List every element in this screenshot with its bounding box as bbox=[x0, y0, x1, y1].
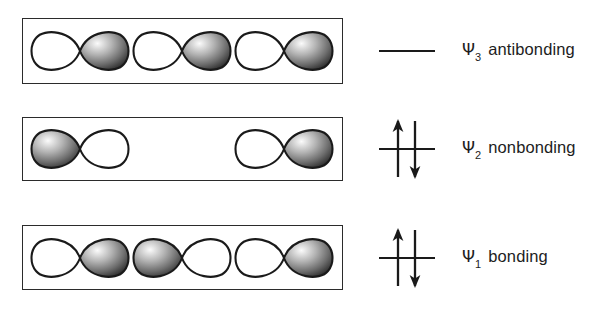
orbital-lobe-empty-icon bbox=[236, 126, 284, 172]
orbital-lobe-shaded-icon bbox=[80, 235, 128, 281]
orbital-lobe-shaded-icon bbox=[80, 28, 128, 74]
molecular-orbital-diagram: Ψ3antibonding bbox=[0, 0, 607, 309]
orbital-lobe-shaded-icon bbox=[284, 28, 332, 74]
electron-arrow-down-icon bbox=[408, 228, 422, 288]
p-orbital bbox=[134, 235, 230, 281]
p-orbital bbox=[236, 235, 332, 281]
psi-symbol: Ψ bbox=[462, 247, 475, 266]
orbital-lobe-shaded-icon bbox=[284, 126, 332, 172]
psi-subscript: 3 bbox=[475, 52, 481, 64]
psi-symbol: Ψ bbox=[462, 138, 475, 157]
mo-label-psi2: Ψ2nonbonding bbox=[462, 138, 576, 159]
p-orbital-node-empty bbox=[134, 126, 230, 172]
energy-level-psi1 bbox=[379, 228, 435, 288]
p-orbital bbox=[236, 28, 332, 74]
orbital-box-psi1 bbox=[22, 225, 343, 290]
energy-level-line bbox=[379, 50, 435, 52]
mo-level-row: Ψ1bonding bbox=[0, 225, 607, 290]
p-orbital bbox=[236, 126, 332, 172]
psi-symbol: Ψ bbox=[462, 40, 475, 59]
p-orbital bbox=[32, 235, 128, 281]
orbital-strip bbox=[23, 118, 342, 180]
energy-level-line bbox=[379, 257, 435, 259]
orbital-lobe-shaded-icon bbox=[284, 235, 332, 281]
orbital-lobe-empty-icon bbox=[236, 28, 284, 74]
mo-level-row: Ψ3antibonding bbox=[0, 18, 607, 84]
energy-level-line bbox=[379, 148, 435, 150]
psi-subscript: 1 bbox=[475, 258, 481, 270]
orbital-lobe-empty-icon bbox=[236, 235, 284, 281]
mo-level-row: Ψ2nonbonding bbox=[0, 117, 607, 181]
psi-subscript: 2 bbox=[475, 150, 481, 162]
orbital-lobe-empty-icon bbox=[32, 235, 80, 281]
energy-level-psi2 bbox=[379, 119, 435, 179]
orbital-lobe-empty-icon bbox=[32, 28, 80, 74]
orbital-strip bbox=[23, 19, 342, 83]
orbital-lobe-shaded-icon bbox=[32, 126, 80, 172]
orbital-lobe-shaded-icon bbox=[182, 28, 230, 74]
orbital-lobe-empty-icon bbox=[134, 28, 182, 74]
electron-arrow-up-icon bbox=[391, 119, 405, 179]
mo-term: antibonding bbox=[488, 40, 574, 58]
orbital-strip bbox=[23, 226, 342, 289]
electron-arrow-up-icon bbox=[391, 228, 405, 288]
mo-term: bonding bbox=[488, 247, 547, 265]
orbital-lobe-shaded-icon bbox=[134, 235, 182, 281]
p-orbital bbox=[32, 28, 128, 74]
electron-arrow-down-icon bbox=[408, 119, 422, 179]
mo-label-psi3: Ψ3antibonding bbox=[462, 40, 575, 61]
energy-level-psi3 bbox=[379, 21, 435, 81]
orbital-box-psi2 bbox=[22, 117, 343, 181]
orbital-box-psi3 bbox=[22, 18, 343, 84]
orbital-lobe-empty-icon bbox=[80, 126, 128, 172]
p-orbital bbox=[134, 28, 230, 74]
p-orbital bbox=[32, 126, 128, 172]
mo-label-psi1: Ψ1bonding bbox=[462, 247, 548, 268]
orbital-lobe-empty-icon bbox=[182, 235, 230, 281]
mo-term: nonbonding bbox=[488, 138, 575, 156]
